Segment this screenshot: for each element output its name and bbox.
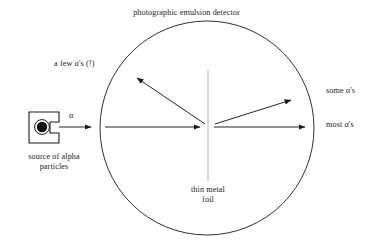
detector-title-label: photographic emulsion detector bbox=[0, 8, 373, 18]
alpha-source-dot bbox=[37, 122, 47, 132]
few-alphas-backscatter-arrow bbox=[137, 78, 205, 124]
some-alphas-label: some α's bbox=[326, 86, 355, 96]
few-alphas-label: a few α's (!) bbox=[54, 59, 94, 69]
some-alphas-arrow bbox=[215, 100, 291, 124]
source-label-line1: source of alpha bbox=[28, 152, 80, 161]
diagram-canvas bbox=[0, 0, 373, 245]
rutherford-scattering-diagram: photographic emulsion detector a few α's… bbox=[0, 0, 373, 245]
most-alphas-label: most α's bbox=[326, 120, 354, 130]
source-label-line2: particles bbox=[40, 162, 69, 171]
foil-label-line1: thin metal bbox=[191, 185, 225, 194]
thin-metal-foil-label: thin metalfoil bbox=[168, 185, 248, 205]
foil-label-line2: foil bbox=[202, 195, 214, 204]
alpha-source-label: source of alphaparticles bbox=[2, 152, 106, 172]
alpha-beam-label: α bbox=[69, 110, 74, 120]
